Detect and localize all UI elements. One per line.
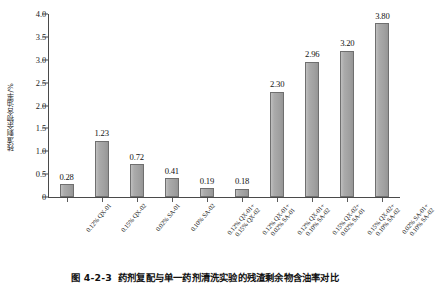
x-tick-mark-1 — [102, 198, 103, 202]
bar-slot: 0.19 — [200, 14, 214, 197]
bar-slot: 3.20 — [340, 14, 354, 197]
x-tick-mark-5 — [242, 198, 243, 202]
bar-value-label: 0.72 — [130, 152, 144, 162]
bar — [200, 188, 214, 197]
x-axis-label-8: 0.15% QX-02+0.10% SA-02 — [366, 202, 402, 241]
x-axis-label-line1: 0.12% QX-01 — [84, 202, 112, 233]
bar — [270, 92, 284, 197]
bar-value-label: 0.18 — [235, 176, 249, 186]
bar — [340, 51, 354, 197]
y-tick-mark-0 — [42, 197, 48, 198]
bar-value-label: 3.80 — [375, 11, 389, 21]
bar-value-label: 2.96 — [305, 49, 319, 59]
x-axis-label-1: 0.15% QX-02 — [119, 202, 147, 233]
bar-slot: 2.30 — [270, 14, 284, 197]
bar — [130, 164, 144, 197]
bar — [165, 178, 179, 197]
x-axis-label-9: 0.02% SA-01+0.10% SA-02 — [401, 202, 436, 240]
bar-value-label: 0.28 — [59, 172, 73, 182]
bar-value-label: 0.19 — [200, 176, 214, 186]
x-tick-mark-9 — [382, 198, 383, 202]
y-axis-tick-labels: 00.51.01.52.02.53.03.54.0 — [20, 0, 46, 200]
bar-value-label: 3.20 — [340, 38, 354, 48]
x-tick-mark-4 — [207, 198, 208, 202]
caption-number: 图 4-2-3 — [71, 272, 112, 283]
bar — [95, 141, 109, 197]
bar — [305, 62, 319, 197]
x-axis-label-2: 0.02% SA-01 — [154, 202, 181, 233]
y-tick-mark-4 — [42, 105, 48, 106]
bar-value-label: 0.41 — [165, 166, 179, 176]
x-tick-mark-0 — [67, 198, 68, 202]
x-tick-mark-7 — [312, 198, 313, 202]
x-axis-tick-labels: 0.12% QX-010.15% QX-020.02% SA-010.10% S… — [49, 200, 400, 262]
y-tick-mark-2 — [42, 151, 48, 152]
y-tick-mark-1 — [42, 174, 48, 175]
bar — [60, 184, 74, 197]
bar — [235, 189, 249, 197]
chart-plot-area: 残渣剩余物含油率/% 00.51.01.52.02.53.03.54.0 0.2… — [0, 0, 410, 262]
x-tick-mark-3 — [172, 198, 173, 202]
x-axis-label-7: 0.15% QX-02+0.02% SA-01 — [331, 202, 367, 241]
x-axis-label-line1: 0.02% SA-01 — [154, 202, 181, 232]
x-axis-label-line1: 0.15% QX-02 — [119, 202, 147, 233]
y-tick-mark-5 — [42, 82, 48, 83]
x-tick-mark-8 — [347, 198, 348, 202]
bar-slot: 0.41 — [165, 14, 179, 197]
x-axis-label-3: 0.10% SA-02 — [189, 202, 216, 233]
y-axis-label: 残渣剩余物含油率/% — [4, 52, 18, 182]
y-tick-mark-7 — [42, 36, 48, 37]
bar-slot: 0.28 — [60, 14, 74, 197]
y-tick-mark-8 — [42, 14, 48, 15]
bar-slot: 0.18 — [235, 14, 249, 197]
bar-slot: 2.96 — [305, 14, 319, 197]
bar-value-label: 2.30 — [270, 79, 284, 89]
y-tick-mark-3 — [42, 128, 48, 129]
x-tick-mark-6 — [277, 198, 278, 202]
bar-slot: 3.80 — [375, 14, 389, 197]
bar-slot: 1.23 — [95, 14, 109, 197]
figure-caption: 图 4-2-3药剂复配与单一药剂清洗实验的残渣剩余物含油率对比 — [0, 270, 410, 284]
x-axis-label-6: 0.12% QX-01+0.10% SA-02 — [296, 202, 332, 241]
x-tick-mark-2 — [137, 198, 138, 202]
bar-series: 0.281.230.720.410.190.182.302.963.203.80 — [49, 14, 400, 197]
x-axis-label-0: 0.12% QX-01 — [84, 202, 112, 233]
x-axis-label-line1: 0.10% SA-02 — [189, 202, 216, 232]
bar-slot: 0.72 — [130, 14, 144, 197]
bar — [375, 23, 389, 197]
y-tick-mark-6 — [42, 59, 48, 60]
x-axis-label-4: 0.12% QX-01+0.15% QX-02 — [226, 202, 262, 241]
x-axis-label-5: 0.12% QX-01+0.02% SA-01 — [261, 202, 297, 241]
caption-text: 药剂复配与单一药剂清洗实验的残渣剩余物含油率对比 — [118, 272, 339, 283]
bar-value-label: 1.23 — [95, 128, 109, 138]
